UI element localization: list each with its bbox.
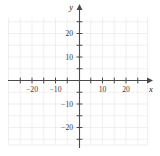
x-tick-label-pos20: 20 [122,85,130,94]
x-tick-label-pos10: 10 [99,85,107,94]
coordinate-plane-figure: −20 −10 10 20 20 10 −10 −20 y x [0,0,160,156]
x-tick-label-neg20: −20 [26,85,38,94]
y-tick-label-pos10: 10 [65,53,73,62]
coordinate-plane-svg: −20 −10 10 20 20 10 −10 −20 y x [0,0,160,156]
x-tick-label-neg10: −10 [50,85,62,94]
y-tick-label-neg20: −20 [61,123,73,132]
x-axis-label: x [148,84,153,94]
y-tick-label-neg10: −10 [61,100,73,109]
y-axis-label: y [68,2,73,12]
y-tick-label-pos20: 20 [65,29,73,38]
